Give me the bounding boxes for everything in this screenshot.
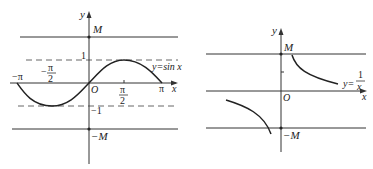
dashed-upper-label: 1: [81, 50, 86, 61]
tick-pi-label: π: [159, 83, 164, 94]
y-axis-label: y: [271, 24, 277, 36]
reciprocal-label-prefix: y=: [342, 78, 354, 89]
diagram-canvas: y M 1 O −1 −M x −π − π 2 π 2 π y=sin x: [0, 0, 373, 169]
origin-label: O: [283, 92, 290, 103]
tick-neg-half-pi-den: 2: [48, 73, 53, 84]
tick-half-pi-den: 2: [120, 95, 125, 106]
point-m: [279, 52, 282, 55]
hyperbola-branch-negative: [226, 100, 271, 134]
origin-label: O: [91, 84, 98, 95]
tick-half-pi-num: π: [120, 84, 125, 95]
tick-neg-pi-label: −π: [12, 71, 23, 82]
hyperbola-branch-positive: [292, 55, 338, 84]
tick-neg-half-pi-sign: −: [41, 66, 47, 77]
right-graph: y M O −M x y= 1 x: [206, 24, 367, 152]
sine-function-label: y=sin x: [151, 61, 182, 72]
point-m: [87, 35, 90, 38]
y-axis-label: y: [79, 8, 85, 20]
dashed-lower-label: −1: [91, 105, 102, 116]
reciprocal-label-den: x: [356, 81, 362, 92]
reciprocal-label-num: 1: [358, 69, 363, 80]
lower-bound-label: −M: [283, 129, 300, 141]
y-axis-arrow-icon: [87, 11, 92, 18]
upper-bound-label: M: [283, 41, 294, 53]
tick-neg-half-pi-num: π: [48, 62, 53, 73]
y-axis-arrow-icon: [279, 28, 284, 35]
x-axis-label: x: [171, 83, 177, 94]
upper-bound-label: M: [92, 23, 103, 35]
left-graph: y M 1 O −1 −M x −π − π 2 π 2 π y=sin x: [10, 8, 182, 164]
x-axis-label: x: [361, 91, 367, 102]
lower-bound-label: −M: [91, 130, 108, 142]
